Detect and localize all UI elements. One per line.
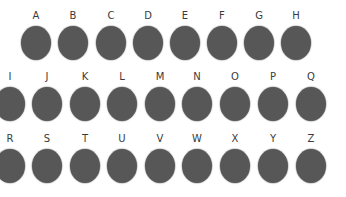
letter-item[interactable]: C xyxy=(93,10,129,70)
circle-button[interactable] xyxy=(0,87,25,121)
letter-item[interactable]: E xyxy=(167,10,203,70)
letter-item[interactable]: G xyxy=(241,10,277,70)
letter-label: Z xyxy=(293,133,329,145)
letter-item[interactable]: Y xyxy=(255,133,291,193)
letter-label: N xyxy=(179,71,215,83)
letter-item[interactable]: D xyxy=(130,10,166,70)
circle-button[interactable] xyxy=(58,26,88,60)
circle-button[interactable] xyxy=(145,149,175,183)
letter-label: E xyxy=(167,10,203,22)
letter-label: W xyxy=(179,133,215,145)
letter-label: V xyxy=(142,133,178,145)
letter-item[interactable]: L xyxy=(104,71,140,131)
letter-label: L xyxy=(104,71,140,83)
letter-item[interactable]: M xyxy=(142,71,178,131)
circle-button[interactable] xyxy=(0,149,25,183)
letter-item[interactable]: R xyxy=(0,133,28,193)
letter-label: P xyxy=(255,71,291,83)
circle-button[interactable] xyxy=(170,26,200,60)
letter-label: A xyxy=(18,10,54,22)
circle-button[interactable] xyxy=(258,149,288,183)
letter-label: S xyxy=(29,133,65,145)
circle-button[interactable] xyxy=(220,149,250,183)
circle-button[interactable] xyxy=(182,149,212,183)
letter-item[interactable]: A xyxy=(18,10,54,70)
letter-item[interactable]: K xyxy=(67,71,103,131)
letter-label: F xyxy=(204,10,240,22)
circle-button[interactable] xyxy=(107,87,137,121)
circle-button[interactable] xyxy=(281,26,311,60)
letter-label: R xyxy=(0,133,28,145)
circle-button[interactable] xyxy=(96,26,126,60)
letter-item[interactable]: N xyxy=(179,71,215,131)
letter-item[interactable]: V xyxy=(142,133,178,193)
circle-button[interactable] xyxy=(145,87,175,121)
letter-label: D xyxy=(130,10,166,22)
letter-item[interactable]: W xyxy=(179,133,215,193)
letter-label: K xyxy=(67,71,103,83)
circle-button[interactable] xyxy=(220,87,250,121)
letter-item[interactable]: F xyxy=(204,10,240,70)
letter-item[interactable]: Z xyxy=(293,133,329,193)
circle-button[interactable] xyxy=(244,26,274,60)
letter-label: Q xyxy=(293,71,329,83)
circle-button[interactable] xyxy=(70,149,100,183)
letter-item[interactable]: Q xyxy=(293,71,329,131)
circle-button[interactable] xyxy=(258,87,288,121)
letter-label: B xyxy=(55,10,91,22)
letter-label: G xyxy=(241,10,277,22)
letter-label: T xyxy=(67,133,103,145)
circle-button[interactable] xyxy=(182,87,212,121)
letter-label: H xyxy=(278,10,314,22)
letter-label: I xyxy=(0,71,28,83)
letter-item[interactable]: X xyxy=(217,133,253,193)
letter-item[interactable]: B xyxy=(55,10,91,70)
circle-button[interactable] xyxy=(70,87,100,121)
circle-button[interactable] xyxy=(296,149,326,183)
circle-button[interactable] xyxy=(32,87,62,121)
letter-item[interactable]: S xyxy=(29,133,65,193)
circle-button[interactable] xyxy=(32,149,62,183)
letter-label: X xyxy=(217,133,253,145)
circle-button[interactable] xyxy=(133,26,163,60)
letter-label: Y xyxy=(255,133,291,145)
letter-item[interactable]: H xyxy=(278,10,314,70)
letter-label: U xyxy=(104,133,140,145)
letter-item[interactable]: I xyxy=(0,71,28,131)
letter-label: J xyxy=(29,71,65,83)
letter-item[interactable]: T xyxy=(67,133,103,193)
letter-label: O xyxy=(217,71,253,83)
circle-button[interactable] xyxy=(107,149,137,183)
letter-item[interactable]: J xyxy=(29,71,65,131)
letter-item[interactable]: U xyxy=(104,133,140,193)
circle-button[interactable] xyxy=(207,26,237,60)
circle-button[interactable] xyxy=(21,26,51,60)
letter-label: M xyxy=(142,71,178,83)
letter-label: C xyxy=(93,10,129,22)
circle-button[interactable] xyxy=(296,87,326,121)
letter-item[interactable]: P xyxy=(255,71,291,131)
letter-item[interactable]: O xyxy=(217,71,253,131)
